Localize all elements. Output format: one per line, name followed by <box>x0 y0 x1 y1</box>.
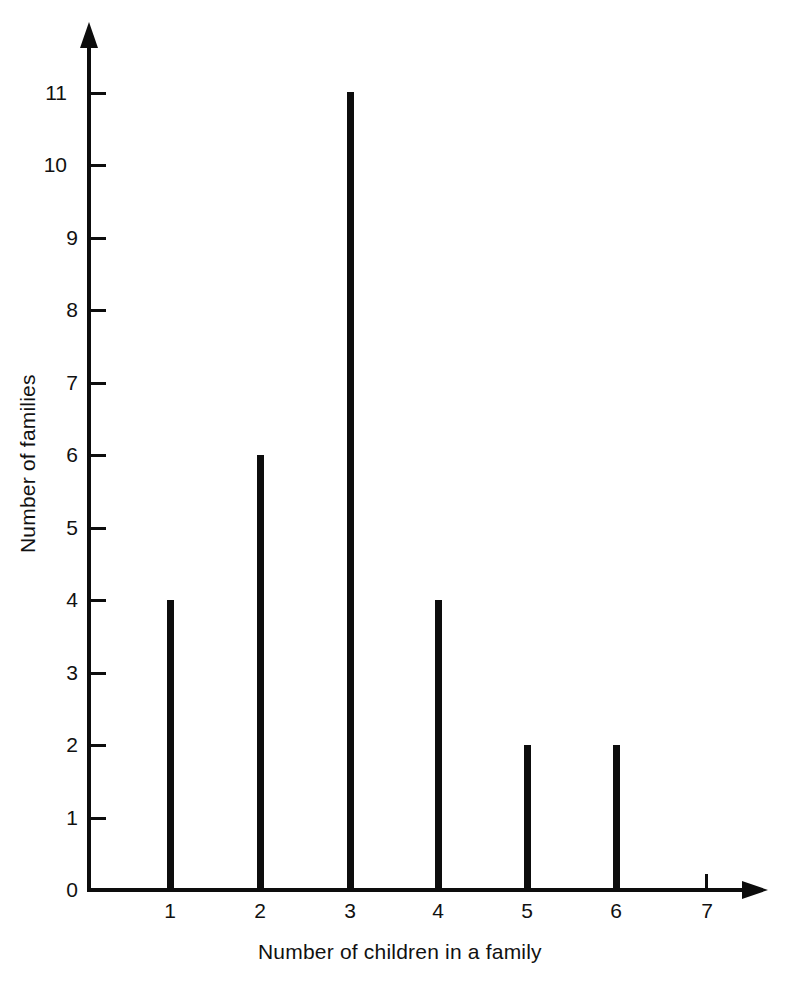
x-tick-label-5: 5 <box>507 900 547 921</box>
y-tick-4 <box>91 599 106 602</box>
y-tick-5 <box>91 527 106 530</box>
y-tick-label-9: 9 <box>38 227 78 248</box>
bar-chart: 0 1 2 3 4 5 6 7 8 9 10 11 1 2 3 4 5 6 7 … <box>0 0 789 986</box>
y-tick-label-1: 1 <box>38 807 78 828</box>
x-tick-label-2: 2 <box>240 900 280 921</box>
y-axis-title: Number of families <box>16 374 40 553</box>
bar-category-4 <box>435 600 442 890</box>
x-tick-label-6: 6 <box>596 900 636 921</box>
bar-category-6 <box>613 745 620 890</box>
x-tick-label-4: 4 <box>418 900 458 921</box>
y-tick-label-10: 10 <box>27 154 67 175</box>
y-tick-7 <box>91 382 106 385</box>
y-tick-10 <box>91 164 106 167</box>
bar-category-1 <box>167 600 174 890</box>
y-tick-0 <box>91 889 106 892</box>
x-tick-label-3: 3 <box>330 900 370 921</box>
bar-category-5 <box>524 745 531 890</box>
y-tick-label-0: 0 <box>38 879 78 900</box>
y-tick-2 <box>91 744 106 747</box>
y-tick-3 <box>91 672 106 675</box>
y-tick-9 <box>91 237 106 240</box>
x-tick-label-1: 1 <box>150 900 190 921</box>
y-tick-label-7: 7 <box>38 372 78 393</box>
x-tick-label-7: 7 <box>687 900 727 921</box>
x-axis-arrow-icon <box>742 881 768 899</box>
y-axis-arrow-icon <box>80 22 98 48</box>
y-tick-label-8: 8 <box>38 299 78 320</box>
y-tick-1 <box>91 817 106 820</box>
bar-category-3 <box>347 92 354 890</box>
y-tick-8 <box>91 309 106 312</box>
x-tick-7 <box>705 874 708 888</box>
y-tick-label-4: 4 <box>38 589 78 610</box>
y-tick-11 <box>91 92 106 95</box>
y-tick-label-3: 3 <box>38 662 78 683</box>
y-tick-label-2: 2 <box>38 734 78 755</box>
y-tick-label-5: 5 <box>38 517 78 538</box>
x-axis-title: Number of children in a family <box>258 940 542 964</box>
y-tick-label-6: 6 <box>38 444 78 465</box>
x-axis-line <box>87 888 747 892</box>
y-tick-6 <box>91 454 106 457</box>
bar-category-2 <box>257 455 264 890</box>
y-tick-label-11: 11 <box>27 82 67 103</box>
y-axis-line <box>87 45 91 892</box>
